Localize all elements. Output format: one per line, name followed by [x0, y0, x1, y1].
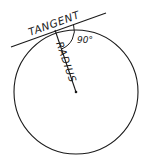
radius-label: RADIUS	[54, 40, 78, 84]
center-point	[75, 91, 78, 94]
diagram-svg: TANGENT RADIUS 90°	[0, 0, 144, 163]
tangent-radius-diagram: TANGENT RADIUS 90°	[0, 0, 144, 163]
angle-label: 90°	[77, 35, 93, 45]
